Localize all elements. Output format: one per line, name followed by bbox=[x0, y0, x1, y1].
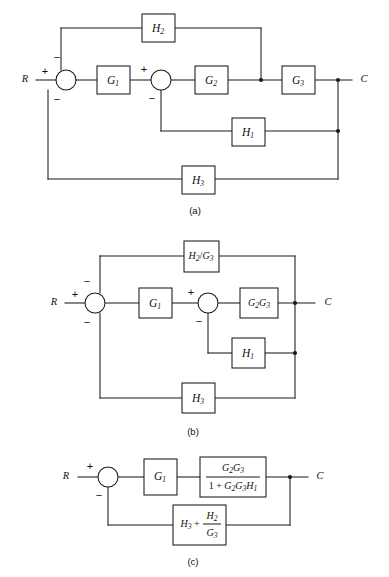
sign-b-sum1-bottom: − bbox=[84, 316, 90, 328]
label-a-input-R: R bbox=[21, 73, 29, 84]
sign-a-sum2-left: + bbox=[141, 63, 147, 75]
sign-a-sum2-bottom: − bbox=[149, 92, 155, 104]
panel-b: + − − + − R C H2/G3 G1 G2G3 H1 H3 (b) bbox=[50, 241, 333, 437]
sum-junction-a-2 bbox=[151, 70, 171, 90]
junction-b-h1-tap bbox=[293, 351, 297, 355]
sign-b-sum2-left: + bbox=[188, 286, 194, 298]
label-b-output-C: C bbox=[324, 296, 332, 307]
junction-a-after-g2 bbox=[259, 78, 263, 82]
label-c-output-C: C bbox=[316, 470, 324, 481]
label-c-input-R: R bbox=[62, 470, 70, 481]
figure-svg: + − − + − R C H2 G1 G2 G3 H1 H3 (a) bbox=[0, 0, 389, 577]
sign-b-sum2-bottom: − bbox=[196, 315, 202, 327]
sum-junction-b-2 bbox=[198, 293, 218, 313]
junction-a-h1-tap bbox=[336, 129, 340, 133]
sum-junction-c-1 bbox=[98, 467, 118, 487]
panel-a: + − − + − R C H2 G1 G2 G3 H1 H3 (a) bbox=[21, 14, 369, 216]
sign-b-sum1-top: − bbox=[84, 275, 90, 287]
sign-b-sum1-left: + bbox=[72, 288, 78, 300]
sum-junction-b-1 bbox=[85, 293, 105, 313]
sign-a-sum1-bottom: − bbox=[54, 93, 60, 105]
sign-a-sum1-left: + bbox=[42, 65, 48, 77]
label-a-output-C: C bbox=[360, 73, 368, 84]
block-diagram-figure: + − − + − R C H2 G1 G2 G3 H1 H3 (a) bbox=[0, 0, 389, 577]
caption-c: (c) bbox=[187, 556, 198, 567]
junction-b-output bbox=[293, 301, 297, 305]
label-b-input-R: R bbox=[50, 296, 58, 307]
sign-c-sum1-left: + bbox=[87, 460, 93, 472]
sign-a-sum1-top: − bbox=[54, 51, 60, 63]
caption-b: (b) bbox=[187, 426, 199, 437]
sign-c-sum1-bottom: − bbox=[96, 489, 102, 501]
junction-a-output bbox=[336, 78, 340, 82]
panel-c: + − R C G1 G2G3 1 + G2G3H1 H3 + H2 G3 (c… bbox=[62, 457, 325, 567]
sum-junction-a-1 bbox=[56, 70, 76, 90]
junction-c-output bbox=[288, 475, 292, 479]
caption-a: (a) bbox=[189, 205, 201, 216]
